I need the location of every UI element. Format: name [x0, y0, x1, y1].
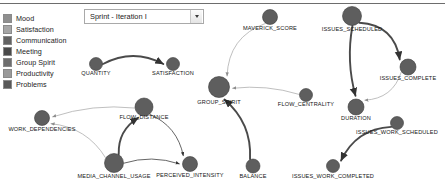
- graph-node[interactable]: [209, 77, 230, 98]
- graph-edge[interactable]: [224, 100, 250, 160]
- graph-edge[interactable]: [124, 159, 179, 164]
- graph-node[interactable]: [343, 7, 362, 26]
- graph-canvas: [0, 0, 445, 190]
- graph-edge[interactable]: [341, 127, 391, 161]
- graph-node[interactable]: [105, 154, 124, 173]
- graph-edge[interactable]: [227, 23, 265, 75]
- graph-node[interactable]: [327, 160, 340, 173]
- graph-edge[interactable]: [233, 87, 299, 94]
- graph-node[interactable]: [300, 89, 313, 102]
- graph-node[interactable]: [263, 10, 278, 25]
- graph-edge[interactable]: [350, 26, 356, 96]
- network-graph-panel: MoodSatisfactionCommunicationMeetingGrou…: [0, 0, 445, 190]
- graph-edge[interactable]: [119, 118, 139, 154]
- graph-edge[interactable]: [150, 114, 183, 155]
- graph-edge[interactable]: [103, 56, 163, 64]
- graph-node[interactable]: [400, 59, 416, 75]
- node-layer: [35, 7, 417, 174]
- graph-node[interactable]: [348, 99, 364, 115]
- graph-node[interactable]: [135, 98, 153, 116]
- graph-node[interactable]: [183, 157, 198, 172]
- graph-node[interactable]: [90, 58, 103, 71]
- graph-edge[interactable]: [51, 124, 105, 158]
- graph-node[interactable]: [167, 58, 180, 71]
- graph-node[interactable]: [246, 159, 260, 173]
- graph-node[interactable]: [391, 117, 404, 130]
- graph-edge[interactable]: [365, 72, 401, 100]
- graph-edge[interactable]: [53, 107, 135, 117]
- graph-edge[interactable]: [359, 23, 399, 60]
- graph-node[interactable]: [35, 111, 50, 126]
